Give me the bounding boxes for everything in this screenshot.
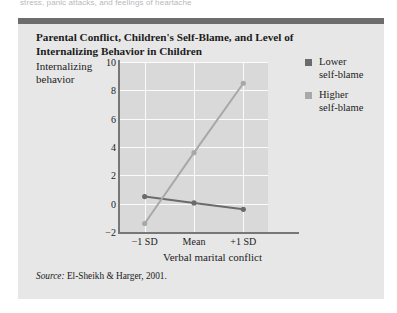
x-axis-title: Verbal marital conflict [120, 251, 305, 263]
legend-swatch-icon [305, 59, 312, 66]
x-tick-label: −1 SD [132, 236, 158, 247]
y-tick-label: 10 [94, 57, 116, 68]
y-tick-label: 6 [94, 113, 116, 124]
legend-label-continued: self-blame [319, 69, 363, 80]
legend-label: Lower [319, 56, 346, 67]
page-body-text-fragment: stress, panic attacks, and feelings of h… [20, 0, 320, 7]
y-tick-label: 0 [94, 198, 116, 209]
legend-label-continued: self-blame [319, 102, 363, 113]
chart-legend: Lowerself-blameHigherself-blame [305, 56, 383, 122]
data-point-marker [142, 221, 147, 226]
figure-title: Parental Conflict, Children's Self-Blame… [36, 31, 346, 58]
x-axis-line [119, 232, 299, 234]
x-axis-tick-labels: −1 SDMean+1 SD [120, 236, 320, 252]
legend-entry: Higherself-blame [305, 89, 383, 114]
data-point-marker [241, 207, 246, 212]
legend-swatch-icon [305, 92, 312, 99]
legend-entry: Lowerself-blame [305, 56, 383, 81]
y-tick-label: 2 [94, 170, 116, 181]
data-point-marker [191, 150, 196, 155]
x-tick-label: +1 SD [230, 236, 256, 247]
y-tick-label: 4 [94, 142, 116, 153]
source-label: Source: [36, 271, 65, 281]
series-layer [120, 62, 268, 232]
figure-source-note: Source: El-Sheikh & Harger, 2001. [36, 271, 167, 281]
source-citation: El-Sheikh & Harger, 2001. [67, 271, 167, 281]
legend-label: Higher [319, 89, 348, 100]
data-point-marker [241, 81, 246, 86]
data-point-marker [191, 200, 196, 205]
x-tick-label: Mean [183, 236, 206, 247]
data-point-marker [142, 194, 147, 199]
figure-panel: Parental Conflict, Children's Self-Blame… [18, 18, 384, 299]
y-tick-label: −2 [94, 227, 116, 238]
y-tick-label: 8 [94, 85, 116, 96]
figure-top-rule [18, 18, 384, 24]
y-axis-tick-labels: −20246810 [92, 62, 116, 232]
